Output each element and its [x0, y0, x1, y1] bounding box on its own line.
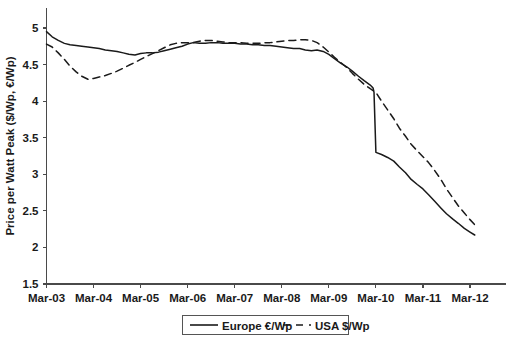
data-series-group: [47, 32, 475, 235]
y-tick-label: 4: [32, 95, 39, 107]
y-tick-label: 3: [32, 168, 38, 180]
y-tick-label: 5: [32, 22, 39, 34]
line-chart: Price per Watt Peak ($/Wp, €/Wp) 1.522.5…: [0, 0, 528, 347]
legend-label-usa: USA $/Wp: [315, 320, 370, 332]
x-tick-label: Mar-06: [169, 292, 206, 304]
x-tick-label: Mar-03: [28, 292, 65, 304]
x-tick-label: Mar-10: [357, 292, 394, 304]
series-line-usa: [47, 40, 475, 225]
y-axis-title-group: Price per Watt Peak ($/Wp, €/Wp): [4, 56, 16, 235]
y-axis-title: Price per Watt Peak ($/Wp, €/Wp): [4, 56, 16, 235]
x-tick-label: Mar-08: [263, 292, 301, 304]
y-tick-label: 2: [32, 241, 38, 253]
y-tick-label: 3.5: [23, 132, 40, 144]
legend: Europe €/Wp USA $/Wp: [183, 316, 370, 335]
x-tick-label: Mar-05: [122, 292, 160, 304]
axes: [47, 8, 507, 284]
y-tick-label: 1.5: [23, 278, 40, 290]
x-tick-label: Mar-04: [75, 292, 113, 304]
y-axis-ticks: 1.522.533.544.55: [23, 22, 47, 290]
x-tick-label: Mar-09: [310, 292, 347, 304]
y-tick-label: 4.5: [23, 59, 40, 71]
chart-figure: Price per Watt Peak ($/Wp, €/Wp) 1.522.5…: [0, 0, 528, 347]
y-tick-label: 2.5: [23, 205, 40, 217]
legend-label-europe: Europe €/Wp: [222, 320, 292, 332]
x-tick-label: Mar-11: [405, 292, 442, 304]
x-axis-ticks: Mar-03Mar-04Mar-05Mar-06Mar-07Mar-08Mar-…: [28, 284, 489, 304]
x-tick-label: Mar-07: [216, 292, 253, 304]
series-line-europe: [47, 32, 475, 235]
x-tick-label: Mar-12: [451, 292, 488, 304]
